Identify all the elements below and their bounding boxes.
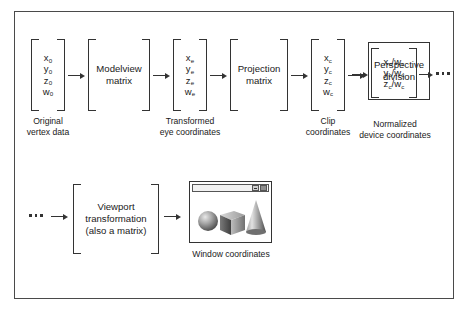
vector-row: xc xyxy=(324,53,332,63)
bracket-right xyxy=(280,39,288,111)
arrow-head xyxy=(360,73,365,79)
figure-border: x0 y0 z0 w0 Original vertex data Modelvi… xyxy=(14,11,454,299)
caption-line: Transformed xyxy=(152,116,228,127)
arrow-head xyxy=(222,73,227,79)
caption-line: eye coordinates xyxy=(152,127,228,138)
vector-rows: x0 y0 z0 w0 xyxy=(43,53,54,96)
perspective-division-box: Perspective division xyxy=(368,42,430,100)
arrow-clip-to-perspective xyxy=(348,71,365,80)
caption-line: Clip xyxy=(296,116,360,127)
clip-coordinates-vector: xc yc zc wc xyxy=(311,39,345,111)
bracket-right xyxy=(57,39,65,111)
vector-row: yc xyxy=(324,64,332,74)
arrow-eye-to-projection xyxy=(210,71,227,80)
vector-rows: xe ye ze we xyxy=(185,53,196,96)
caption-line: vertex data xyxy=(17,127,79,138)
arrow-projection-to-clip xyxy=(291,71,308,80)
arrow-head xyxy=(165,73,170,79)
opengl-transformation-pipeline-figure: x0 y0 z0 w0 Original vertex data Modelvi… xyxy=(0,0,468,310)
arrow-vertex-to-modelview xyxy=(68,71,85,80)
arrow-shaft xyxy=(348,75,360,76)
modelview-matrix-label: Modelview matrix xyxy=(96,63,141,86)
bracket-right xyxy=(337,39,345,111)
label-line: matrix xyxy=(96,75,141,87)
vector-row: zc xyxy=(324,76,332,86)
vector-row: x0 xyxy=(44,53,52,63)
original-vertex-vector: x0 y0 z0 w0 xyxy=(31,39,65,111)
bracket-left xyxy=(31,39,39,111)
bracket-right xyxy=(142,39,150,111)
arrow-modelview-to-eye xyxy=(153,71,170,80)
arrow-head xyxy=(303,73,308,79)
bracket-left xyxy=(173,39,181,111)
bracket-left xyxy=(311,39,319,111)
bracket-left xyxy=(230,39,238,111)
projection-matrix-box: Projection matrix xyxy=(230,39,288,111)
vector-row: we xyxy=(185,87,196,97)
caption-original-vertex-data: Original vertex data xyxy=(17,116,79,137)
vector-row: xe xyxy=(186,53,194,63)
perspective-division-label: Perspective division xyxy=(374,59,424,82)
caption-eye-coordinates: Transformed eye coordinates xyxy=(152,116,228,137)
label-line: division xyxy=(374,71,424,83)
modelview-matrix-box: Modelview matrix xyxy=(88,39,150,111)
label-line: Projection xyxy=(238,63,281,75)
bracket-right xyxy=(199,39,207,111)
caption-clip-coordinates: Clip coordinates xyxy=(296,116,360,137)
vector-row: y0 xyxy=(44,64,52,74)
label-line: matrix xyxy=(238,75,281,87)
bracket-left xyxy=(88,39,96,111)
caption-line: coordinates xyxy=(296,127,360,138)
arrow-shaft xyxy=(210,75,222,76)
projection-matrix-label: Projection matrix xyxy=(238,63,281,86)
label-line: Modelview xyxy=(96,63,141,75)
vector-row: wc xyxy=(323,87,333,97)
vector-row: ze xyxy=(186,76,194,86)
arrow-head xyxy=(80,73,85,79)
vector-row: ye xyxy=(186,64,194,74)
arrow-shaft xyxy=(153,75,165,76)
label-line: Perspective xyxy=(374,59,424,71)
vector-row: z0 xyxy=(44,76,52,86)
eye-coordinates-vector: xe ye ze we xyxy=(173,39,207,111)
arrow-shaft xyxy=(291,75,303,76)
caption-line: Original xyxy=(17,116,79,127)
vector-row: w0 xyxy=(43,87,54,97)
vector-rows: xc yc zc wc xyxy=(323,53,333,96)
arrow-shaft xyxy=(68,75,80,76)
